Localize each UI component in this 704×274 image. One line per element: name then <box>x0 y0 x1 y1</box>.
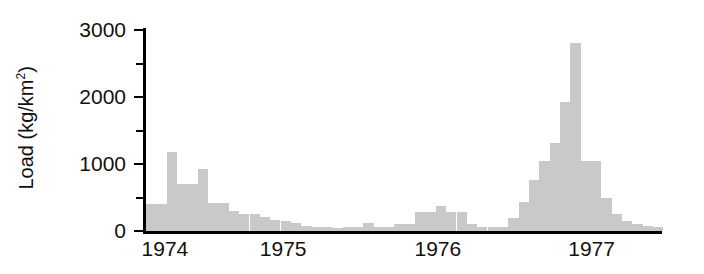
bar <box>322 227 332 231</box>
bar <box>270 220 280 231</box>
y-tick-label-0: 0 <box>52 220 126 241</box>
y-axis-title-exponent: 2 <box>14 73 28 80</box>
bar <box>260 217 270 231</box>
bar <box>332 228 342 231</box>
bar <box>622 221 632 231</box>
bar <box>581 161 591 231</box>
y-tick-label-3000: 3000 <box>52 19 126 40</box>
bar <box>457 212 467 231</box>
bar <box>405 224 415 231</box>
y-axis-tick-labels: 3000200010000 <box>50 0 126 274</box>
bar <box>208 203 218 231</box>
bar <box>156 204 166 231</box>
bar <box>529 180 539 231</box>
bar <box>425 212 435 231</box>
bar <box>498 227 508 231</box>
bar <box>312 227 322 231</box>
bar <box>374 227 384 231</box>
bar <box>653 227 663 231</box>
bar <box>550 143 560 231</box>
bar <box>250 214 260 231</box>
bar <box>436 206 446 231</box>
y-tick-mark-1000 <box>134 163 143 165</box>
y-tick-mark-0 <box>134 230 143 232</box>
bar <box>446 212 456 231</box>
bar <box>632 224 642 231</box>
bar <box>177 184 187 231</box>
bar <box>539 161 549 231</box>
bar <box>187 184 197 231</box>
y-tick-mark-2000 <box>134 96 143 98</box>
bar <box>591 161 601 231</box>
bar <box>612 214 622 231</box>
bar <box>384 227 394 231</box>
bar <box>477 227 487 231</box>
bar <box>343 227 353 231</box>
bar <box>229 211 239 231</box>
bar <box>415 212 425 231</box>
bar <box>467 224 477 231</box>
bar <box>301 226 311 231</box>
bar <box>281 221 291 231</box>
y-axis-title-text: Load (kg/km <box>15 79 37 189</box>
y-tick-label-2000: 2000 <box>52 86 126 107</box>
x-axis-line <box>143 231 662 234</box>
bar <box>519 202 529 231</box>
y-tick-mark-1500 <box>136 130 143 132</box>
x-tick-label-1977: 1977 <box>568 238 615 259</box>
bar <box>570 43 580 231</box>
bar <box>601 198 611 231</box>
y-tick-label-1000: 1000 <box>52 153 126 174</box>
bar <box>508 218 518 231</box>
plot-area <box>146 30 660 231</box>
y-tick-mark-2500 <box>136 63 143 65</box>
x-tick-label-1975: 1975 <box>260 238 307 259</box>
bar <box>198 169 208 231</box>
x-tick-label-1976: 1976 <box>415 238 462 259</box>
y-axis-title-suffix: ) <box>15 66 37 73</box>
bar <box>394 224 404 231</box>
figure-container: Load (kg/km2) 3000200010000 197419751976… <box>0 0 704 274</box>
bar <box>643 226 653 231</box>
y-axis-title: Load (kg/km2) <box>14 18 38 238</box>
bar <box>239 214 249 231</box>
y-tick-mark-3000 <box>134 29 143 31</box>
bar <box>353 227 363 231</box>
bar <box>560 102 570 231</box>
bar <box>218 203 228 231</box>
y-tick-mark-500 <box>136 197 143 199</box>
bar <box>488 227 498 231</box>
bar <box>146 204 156 231</box>
bar <box>167 152 177 231</box>
x-tick-label-1974: 1974 <box>142 238 189 259</box>
bar <box>291 223 301 231</box>
bar <box>363 223 373 231</box>
